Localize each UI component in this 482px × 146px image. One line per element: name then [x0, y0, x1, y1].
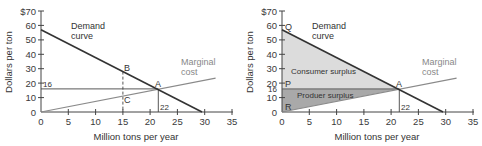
- mc-label-1: Marginal: [422, 57, 457, 67]
- x-tick-label-20: 20: [386, 116, 397, 127]
- demand-label-1: Demand: [312, 21, 346, 31]
- y-tick-label-40: 40: [25, 49, 36, 60]
- y-tick-label-60: 60: [25, 20, 36, 31]
- y-tick-label-0: 0: [31, 107, 36, 118]
- y-tick-label-0: 0: [272, 107, 277, 118]
- x-tick-label-5: 5: [307, 116, 312, 127]
- left-chart-svg: $70 60 50 40 30 20 10 0 0 5 10 15 20 25 …: [0, 0, 241, 146]
- x-tick-label-35: 35: [468, 116, 479, 127]
- point-b-label: B: [124, 63, 130, 73]
- y-tick-label-30: 30: [25, 63, 36, 74]
- producer-surplus-label: Produer surplus: [297, 91, 353, 100]
- x-tick-label-25: 25: [172, 116, 183, 127]
- point-a-label: A: [155, 79, 161, 89]
- y-tick-label-40: 40: [266, 49, 277, 60]
- y-tick-label-50: 50: [266, 34, 277, 45]
- mc-label-2: cost: [422, 67, 439, 77]
- point-p-label: P: [285, 79, 291, 89]
- x-tick-label-35: 35: [227, 116, 238, 127]
- x-tick-label-25: 25: [413, 116, 424, 127]
- x-tick-label-20: 20: [145, 116, 156, 127]
- point-q-label: Q: [285, 22, 292, 32]
- right-chart: $70 60 50 40 30 20 16 10 0 0 5 10 15 20 …: [241, 0, 482, 146]
- point-a-label: A: [396, 79, 402, 89]
- y-tick-label-20: 20: [25, 78, 36, 89]
- x-tick-label-0: 0: [279, 116, 284, 127]
- mc-label-1: Marginal: [181, 57, 216, 67]
- x-tick-label-5: 5: [66, 116, 71, 127]
- demand-line: [41, 30, 202, 112]
- y-axis-title: Dollars per ton: [3, 31, 14, 93]
- x-tick-label-30: 30: [199, 116, 210, 127]
- x-tick-label-30: 30: [440, 116, 451, 127]
- y-tick-label-30: 30: [266, 63, 277, 74]
- y-axis-title: Dollars per ton: [244, 31, 255, 93]
- right-chart-svg: $70 60 50 40 30 20 16 10 0 0 5 10 15 20 …: [241, 0, 482, 146]
- demand-label-1: Demand: [71, 21, 105, 31]
- x-tick-label-15: 15: [359, 116, 370, 127]
- x-tick-label-0: 0: [38, 116, 43, 127]
- consumer-surplus-label: Consumer surplus: [291, 67, 356, 76]
- x-tick-label-10: 10: [331, 116, 342, 127]
- y-tick-label-70: $70: [261, 6, 277, 17]
- y-tick-label-10: 10: [25, 92, 36, 103]
- y-tick-label-50: 50: [25, 34, 36, 45]
- x-axis-title: Million tons per year: [93, 131, 178, 142]
- y-tick-label-10: 10: [266, 92, 277, 103]
- label-16: 16: [43, 80, 52, 89]
- point-c-label: C: [124, 95, 131, 105]
- y-tick-label-70: $70: [20, 6, 36, 17]
- x-tick-label-15: 15: [118, 116, 129, 127]
- label-22: 22: [160, 103, 169, 112]
- x-axis-title: Million tons per year: [334, 131, 419, 142]
- left-chart: $70 60 50 40 30 20 10 0 0 5 10 15 20 25 …: [0, 0, 241, 146]
- label-22: 22: [401, 103, 410, 112]
- point-r-label: R: [285, 102, 292, 112]
- x-tick-label-10: 10: [90, 116, 101, 127]
- demand-label-2: curve: [71, 31, 93, 41]
- mc-label-2: cost: [181, 67, 198, 77]
- y-tick-label-60: 60: [266, 20, 277, 31]
- demand-label-2: curve: [312, 31, 334, 41]
